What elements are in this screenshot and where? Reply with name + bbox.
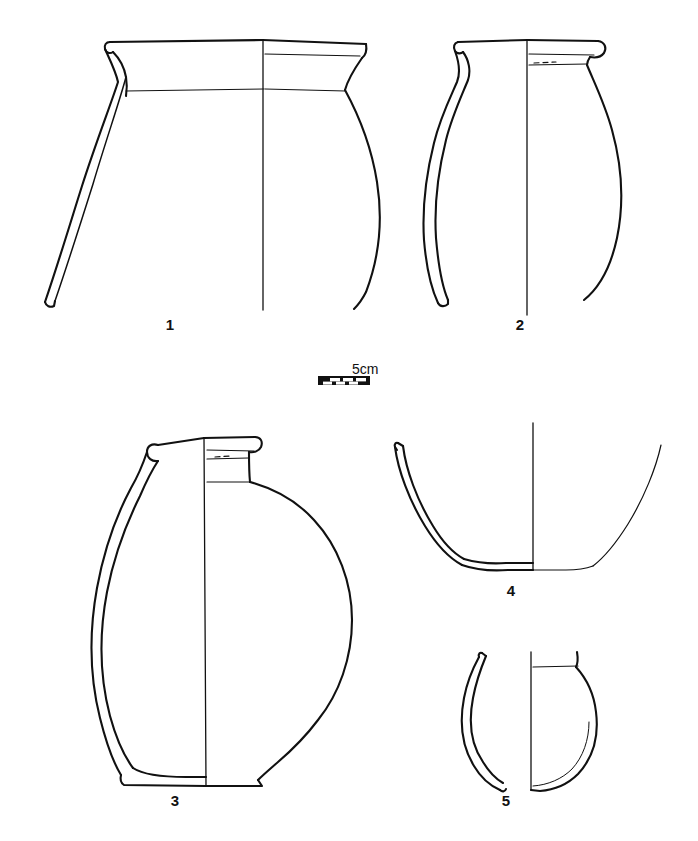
fig2-dashed-mark-right (534, 62, 556, 63)
figure-label-2: 2 (500, 316, 540, 333)
fig4-wall-outer-left (395, 447, 462, 565)
fig2-rim-drop-right (587, 57, 590, 65)
fig3-rim-under-right (207, 450, 254, 451)
fig3-rim-top-left (158, 438, 204, 445)
scale-bar-notch-4 (323, 382, 332, 385)
fig5-rim-cap-left (482, 653, 486, 656)
fig1-neck-line-right (265, 89, 345, 91)
figure-5-drawing (462, 652, 597, 791)
fig5-shoulder-line-right (533, 666, 578, 667)
fig1-rim-top-right (263, 40, 366, 44)
scale-bar-group (318, 376, 370, 385)
plate-drawing-canvas (0, 0, 698, 841)
fig4-wall-right (593, 445, 661, 566)
fig4-base-outer-left (462, 565, 533, 570)
fig2-break-edge-left (438, 300, 448, 306)
fig3-rim-top-right (204, 437, 255, 438)
figure-2-drawing (423, 40, 621, 315)
fig5-body-inner-hair-right (533, 722, 589, 786)
fig2-rim-under-right (529, 54, 594, 55)
fig1-body-right (345, 90, 380, 309)
scale-bar-caption: 5cm (352, 361, 378, 377)
fig1-neck-right (345, 58, 362, 90)
figure-label-3: 3 (155, 792, 195, 809)
fig5-body-right (531, 667, 597, 791)
scale-bar-notch-2 (343, 378, 353, 381)
figure-4-drawing (395, 423, 661, 570)
pottery-plate: 1 2 3 4 5 5cm (0, 0, 698, 841)
fig2-body-right (584, 65, 621, 300)
scale-bar-notch-5 (336, 382, 345, 385)
fig5-wall-inner-left (471, 656, 503, 783)
fig4-break-cap-left (398, 443, 403, 446)
fig1-wall-outer-left (45, 49, 118, 302)
fig2-wall-inner-left (435, 52, 469, 300)
fig4-base-right (533, 566, 593, 570)
fig1-rim-under-right (265, 54, 360, 56)
fig2-wall-outer-left (423, 51, 459, 303)
fig3-rim-bead-right (249, 437, 262, 452)
fig1-wall-inner-left (55, 77, 126, 301)
figure-3-drawing (92, 437, 352, 786)
scale-bar-notch-6 (349, 382, 358, 385)
fig2-neck-line-right (529, 64, 587, 65)
figure-label-1: 1 (150, 316, 190, 333)
fig1-neck-line-left (126, 89, 264, 91)
fig3-axis-line (204, 438, 206, 786)
fig3-rim-lip-left (147, 444, 158, 461)
figure-1-drawing (45, 40, 380, 310)
fig3-wall-inner-left (102, 461, 158, 768)
figure-label-5: 5 (486, 792, 526, 809)
fig3-neck-line-right (207, 458, 248, 459)
fig2-rim-top-right (527, 40, 598, 41)
fig3-base-right (206, 780, 262, 786)
fig5-wall-outer-left (462, 657, 500, 790)
fig1-break-edge-left (45, 301, 55, 307)
fig3-dashed-mark-right (215, 456, 230, 457)
figure-label-4: 4 (491, 582, 531, 599)
scale-bar-notch-3 (356, 378, 366, 381)
fig1-rim-top-left (110, 40, 263, 42)
fig4-base-inner-left (464, 559, 533, 563)
fig3-neck-wall-right (249, 452, 250, 482)
fig2-rim-top-left (458, 40, 527, 42)
scale-bar-notch-1 (330, 378, 340, 381)
fig3-body-right (250, 482, 352, 780)
fig1-rim-edge-right (362, 44, 366, 58)
fig5-rim-right (576, 652, 578, 667)
fig3-base-inner-left (133, 768, 206, 777)
